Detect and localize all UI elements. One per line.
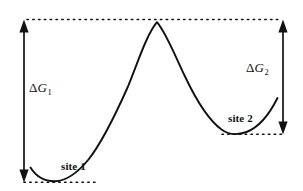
- delta-g-2-arrowhead-top: [278, 20, 287, 33]
- energy-landscape-diagram: site 1 site 2 ΔG1 ΔG2: [0, 0, 303, 191]
- delta-g-2-arrow: [278, 20, 287, 135]
- delta-g-1-arrow: [19, 20, 28, 183]
- delta-g-1-label: ΔG1: [29, 81, 52, 94]
- delta-g-2-g-symbol: G: [255, 60, 265, 75]
- site-2-label: site 2: [228, 113, 253, 124]
- delta-g-1-arrowhead-top: [19, 20, 28, 33]
- delta-g-1-g-symbol: G: [38, 80, 48, 95]
- delta-g-1-delta-symbol: Δ: [29, 80, 38, 95]
- free-energy-curve: [31, 22, 278, 181]
- delta-g-2-arrowhead-bottom: [278, 122, 287, 135]
- delta-g-2-label: ΔG2: [246, 61, 269, 74]
- delta-g-2-subscript: 2: [264, 67, 268, 77]
- delta-g-2-delta-symbol: Δ: [246, 60, 255, 75]
- delta-g-1-subscript: 1: [47, 87, 51, 97]
- site-1-label: site 1: [61, 161, 86, 172]
- delta-g-1-arrowhead-bottom: [19, 170, 28, 183]
- diagram-canvas: [0, 0, 303, 191]
